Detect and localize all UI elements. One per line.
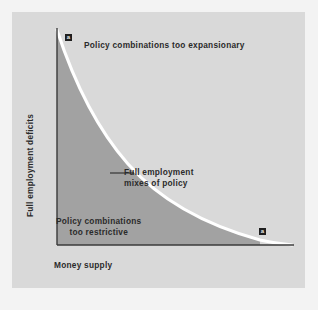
annotation-restrictive-line2: too restrictive xyxy=(69,227,128,237)
annotation-restrictive-line1: Policy combinations xyxy=(56,216,141,226)
endpoint-marker-a-bottom: a xyxy=(259,228,266,235)
x-axis-label: Money supply xyxy=(54,260,112,271)
annotation-full-employment-line1: Full employment xyxy=(124,167,194,177)
annotation-full-employment: Full employmentmixes of policy xyxy=(124,167,194,189)
annotation-full-employment-line2: mixes of policy xyxy=(124,178,188,188)
endpoint-marker-a-top: a xyxy=(65,34,72,41)
annotation-expansionary: Policy combinations too expansionary xyxy=(84,40,245,51)
y-axis-label: Full employment deficits xyxy=(25,105,36,225)
figure-panel: Policy combinations too expansionary Pol… xyxy=(12,12,305,288)
upper-region-fill xyxy=(12,12,305,288)
chart-canvas xyxy=(12,12,305,288)
annotation-restrictive: Policy combinationstoo restrictive xyxy=(56,216,141,238)
